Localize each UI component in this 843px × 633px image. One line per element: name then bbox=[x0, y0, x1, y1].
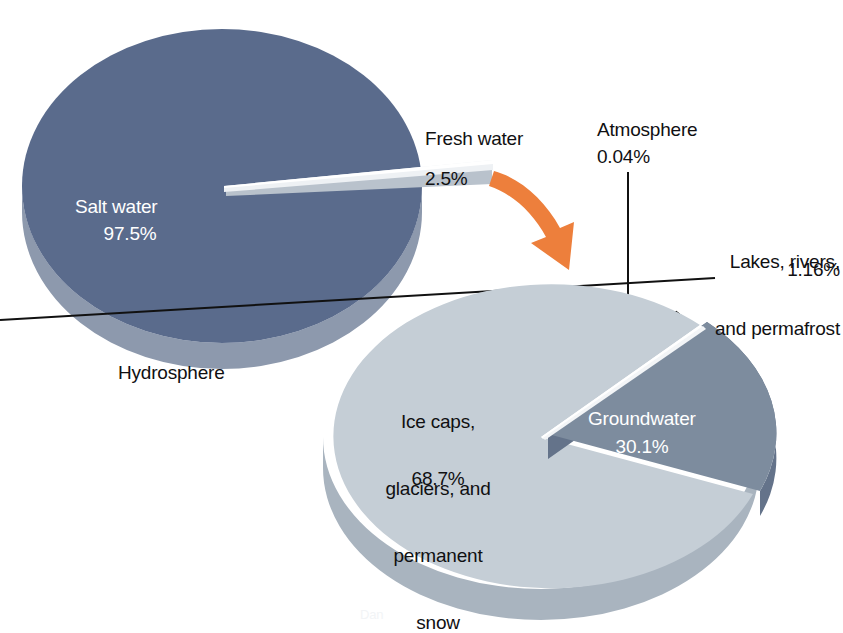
salt-water-label: Salt water bbox=[75, 196, 157, 218]
ice-caps-label: Ice caps, glaciers, and permanent snow bbox=[368, 366, 508, 633]
ice-label-line4: snow bbox=[368, 612, 508, 633]
footer-partial-text: Dan bbox=[360, 607, 383, 622]
orange-flow-arrow bbox=[489, 171, 574, 270]
atmosphere-label: Atmosphere bbox=[597, 119, 697, 141]
lakes-rivers-permafrost-label: Lakes, rivers, and permafrost bbox=[690, 206, 840, 385]
groundwater-percent: 30.1% bbox=[588, 436, 696, 458]
fresh-water-percent: 2.5% bbox=[425, 168, 468, 190]
hydrosphere-caption: Hydrosphere bbox=[118, 362, 225, 384]
lakes-label-line2: and permafrost bbox=[690, 318, 840, 340]
groundwater-label: Groundwater bbox=[588, 408, 696, 430]
lakes-rivers-permafrost-percent: 1.16% bbox=[690, 259, 840, 281]
ice-label-line3: permanent bbox=[368, 545, 508, 567]
salt-water-percent: 97.5% bbox=[75, 223, 185, 245]
atmosphere-percent: 0.04% bbox=[597, 146, 650, 168]
fresh-water-label: Fresh water bbox=[425, 128, 523, 150]
ice-label-line1: Ice caps, bbox=[368, 411, 508, 433]
ice-caps-percent: 68.7% bbox=[368, 468, 508, 490]
